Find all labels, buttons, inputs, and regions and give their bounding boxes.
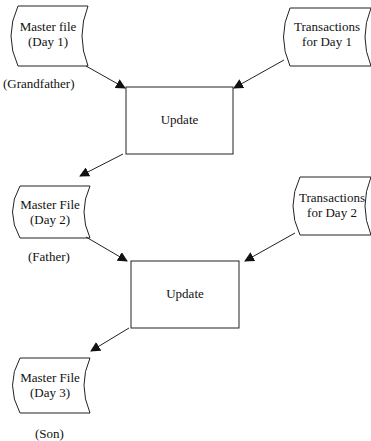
arrow-trans1-to-update1 [234,60,284,88]
arrow-master2-to-update2 [86,237,127,261]
node-trans-day1-line2: for Day 1 [282,34,371,49]
generation-son: (Son) [35,426,64,441]
arrow-master1-to-update1 [86,66,125,88]
node-master-day3: Master File (Day 3) [12,370,88,400]
generation-father: (Father) [28,249,70,264]
node-master-day3-line1: Master File [12,370,88,385]
arrow-update2-to-master3 [91,328,129,351]
node-update1: Update [126,112,233,127]
node-master-day2-line2: (Day 2) [12,212,88,227]
node-trans-day1-line1: Transactions [282,19,371,34]
arrow-update1-to-master2 [80,154,123,176]
arrow-trans2-to-update2 [245,233,295,261]
node-master-day3-line2: (Day 3) [12,385,88,400]
node-trans-day2-line1: Transactions [290,190,371,205]
node-master-day1-line1: Master file [10,19,86,34]
generation-grandfather: (Grandfather) [3,76,74,91]
node-master-day2: Master File (Day 2) [12,197,88,227]
node-update2: Update [131,286,239,301]
node-master-day1-line2: (Day 1) [10,34,86,49]
node-trans-day2-line2: for Day 2 [290,205,371,220]
node-master-day2-line1: Master File [12,197,88,212]
node-master-day1: Master file (Day 1) [10,19,86,49]
node-trans-day2: Transactions for Day 2 [290,190,371,220]
node-trans-day1: Transactions for Day 1 [282,19,371,49]
